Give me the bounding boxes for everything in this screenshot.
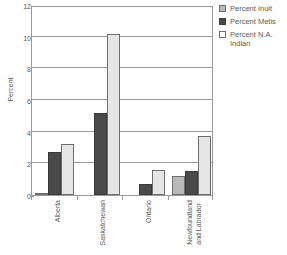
bar-chart: Percent 024681012 AlbertaSaskatchewanOnt…	[0, 0, 287, 255]
y-tick-label: 2	[5, 161, 31, 168]
x-axis-label: Saskatchewan	[99, 200, 108, 246]
bar	[61, 144, 74, 195]
x-axis-label-line: Saskatchewan	[99, 200, 108, 246]
bar-group	[78, 7, 124, 195]
y-tick-label: 10	[5, 34, 31, 41]
legend-item[interactable]: Percent Metis	[219, 17, 287, 26]
bar	[152, 170, 165, 195]
bar	[172, 176, 185, 195]
y-tick-label: 8	[5, 66, 31, 73]
legend-swatch	[219, 31, 226, 38]
bar	[48, 152, 61, 195]
y-tick-label: 0	[5, 193, 31, 200]
y-tick-label: 12	[5, 3, 31, 10]
bar	[94, 113, 107, 195]
legend-label: Percent N.A. Indian	[230, 30, 273, 48]
bar	[139, 184, 152, 195]
x-axis-labels: AlbertaSaskatchewanOntarioNewfoundlandan…	[31, 200, 213, 255]
x-axis-label: Ontario	[145, 200, 154, 223]
bar	[185, 171, 198, 195]
legend-item[interactable]: Percent N.A. Indian	[219, 30, 287, 48]
legend-label: Percent Metis	[230, 17, 276, 26]
bar-group	[123, 7, 169, 195]
bar-group	[32, 7, 78, 195]
y-axis-ticks: 024681012	[0, 6, 31, 196]
x-axis-label-line: and Labrador	[195, 200, 204, 245]
legend-swatch	[219, 18, 226, 25]
y-tick-label: 4	[5, 129, 31, 136]
plot-area	[31, 6, 213, 196]
bar	[35, 193, 48, 195]
y-tick-label: 6	[5, 98, 31, 105]
chart-legend: Percent InuitPercent MetisPercent N.A. I…	[219, 4, 287, 52]
bar	[198, 136, 211, 195]
x-axis-label-line: Newfoundland	[186, 200, 195, 245]
bar	[107, 34, 120, 196]
bar-group	[169, 7, 215, 195]
x-axis-label-line: Ontario	[145, 200, 154, 223]
legend-label: Percent Inuit	[230, 4, 272, 13]
x-axis-label: Alberta	[54, 200, 63, 222]
legend-item[interactable]: Percent Inuit	[219, 4, 287, 13]
x-axis-label-line: Alberta	[54, 200, 63, 222]
x-axis-label: Newfoundlandand Labrador	[186, 200, 203, 245]
legend-swatch	[219, 5, 226, 12]
